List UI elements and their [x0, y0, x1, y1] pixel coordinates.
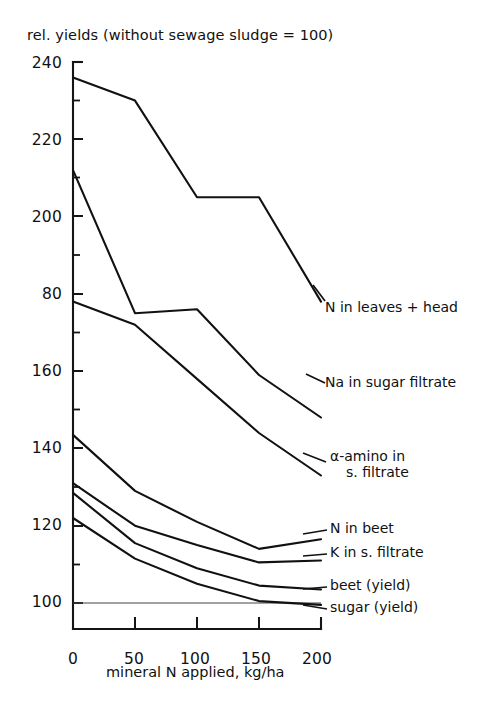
leader-line-beet-yield — [303, 587, 327, 589]
chart-figure: rel. yields (without sewage sludge = 100… — [0, 0, 492, 715]
leader-line-k-in-s-filtrate — [303, 554, 327, 556]
series-line-alpha-amino-in-s-filtrate — [73, 302, 321, 476]
leader-line-n-in-beet — [303, 530, 327, 534]
leader-line-sugar-yield — [303, 605, 327, 609]
plot-area — [0, 0, 492, 715]
x-major-ticks — [73, 617, 321, 629]
series-line-n-in-leaves-head — [73, 78, 321, 302]
leader-line-na-in-sugar-filtrate — [306, 374, 325, 383]
series-line-na-in-sugar-filtrate — [73, 170, 321, 417]
leader-line-alpha-amino — [303, 453, 326, 462]
series-line-n-in-beet — [73, 435, 321, 549]
